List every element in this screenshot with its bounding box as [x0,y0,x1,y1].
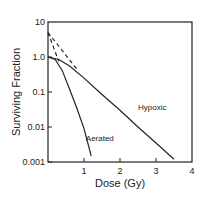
y-tick-label: 0.001 [22,157,45,167]
x-tick-label: 2 [117,166,122,176]
x-axis-ticks: 1234 [81,158,194,176]
plot-frame [48,22,192,162]
aerated-label: Aerated [86,134,114,143]
x-tick-label: 4 [189,166,194,176]
y-tick-label: 0.01 [27,122,45,132]
x-tick-label: 3 [153,166,158,176]
y-axis-title: Surviving Fraction [10,48,22,136]
hypoxic-extrapolation-curve [48,33,77,70]
survival-curve-chart: 101.00.10.010.001 1234 AeratedHypoxic Do… [0,0,202,197]
y-tick-label: 0.1 [32,87,45,97]
y-tick-label: 1.0 [32,52,45,62]
series-labels: AeratedHypoxic [86,103,167,143]
y-tick-label: 10 [35,17,45,27]
x-axis-title: Dose (Gy) [95,177,145,189]
x-tick-label: 1 [81,166,86,176]
aerated-curve [48,57,91,156]
hypoxic-label: Hypoxic [138,103,166,112]
